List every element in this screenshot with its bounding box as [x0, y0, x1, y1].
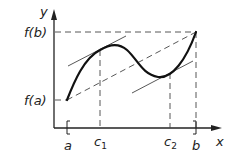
- x-axis-arrow-icon: [211, 125, 222, 131]
- fb-label: f(b): [24, 26, 47, 39]
- c1-subscript: 1: [101, 141, 107, 151]
- c1-label: c1: [94, 135, 107, 151]
- y-axis-label: y: [40, 5, 48, 18]
- y-axis-arrow-icon: [51, 9, 57, 20]
- x-axis-label: x: [216, 135, 224, 148]
- a-label: a: [64, 139, 72, 152]
- secant-line: [67, 32, 196, 100]
- c2-subscript: 2: [171, 141, 177, 151]
- fa-label: f(a): [24, 94, 47, 107]
- c2-label: c2: [164, 135, 177, 151]
- b-label: b: [192, 139, 200, 152]
